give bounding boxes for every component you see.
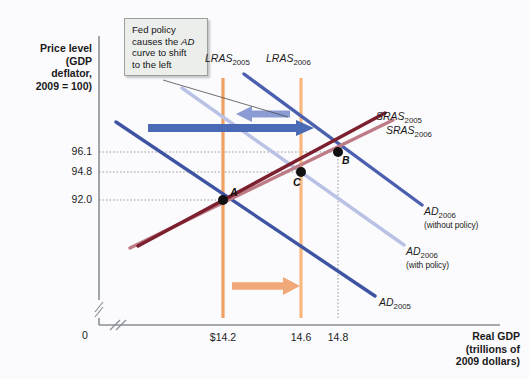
callout-line-2-emphasis: AD [181, 36, 194, 47]
sras-2005-curve [138, 113, 385, 246]
lras-2006-label: LRAS2006 [266, 52, 311, 67]
ad-2006-with-policy-label: AD2006 (with policy) [406, 245, 449, 270]
ad-2006-without-policy-label-main-row: AD2006 [424, 205, 478, 220]
x-axis-title-line-2: (trillions of [398, 343, 520, 356]
callout-line-1: Fed policy [132, 24, 201, 36]
callout-line-3: curve to shift [132, 47, 201, 59]
fed-policy-callout: Fed policy causes the AD curve to shift … [124, 18, 208, 76]
x-axis-title-line-1: Real GDP [398, 330, 520, 343]
point-a-dot [218, 195, 228, 205]
ad-2006-with-policy-label-sub: 2006 [421, 251, 438, 260]
ad-2006-with-policy-label-main: AD [406, 245, 421, 257]
y-tick-92-0: 92.0 [42, 193, 92, 205]
lras-2005-label: LRAS2005 [205, 52, 250, 67]
ad-2006-without-policy-label-sub: 2006 [439, 211, 456, 220]
y-axis-title: Price level (GDP deflator, 2009 = 100) [8, 42, 92, 92]
y-tick-96-1: 96.1 [42, 145, 92, 157]
ad-2006-without-policy-label: AD2006 (without policy) [424, 205, 478, 230]
callout-leader-line [163, 80, 288, 117]
x-tick-14-2: $14.2 [198, 331, 248, 343]
callout-line-2: causes the AD [132, 36, 201, 48]
sras-2005-label: SRAS2005 [376, 110, 422, 125]
sras-2005-label-main: SRAS [376, 110, 405, 122]
y-tick-94-8: 94.8 [42, 165, 92, 177]
x-axis-title: Real GDP (trillions of 2009 dollars) [398, 330, 520, 368]
ad-2005-label-sub: 2005 [394, 302, 411, 311]
ad-2005-label: AD2005 [379, 296, 411, 311]
y-axis-title-line-1: Price level [8, 42, 92, 55]
economics-ad-as-figure: Price level (GDP deflator, 2009 = 100) 9… [0, 0, 529, 379]
point-a-label: A [230, 186, 238, 198]
lras-2005-label-main: LRAS [205, 52, 232, 64]
point-c-label: C [293, 176, 301, 188]
y-axis-title-line-4: 2009 = 100) [8, 80, 92, 93]
ad-2005-label-main: AD [379, 296, 394, 308]
y-axis-title-line-3: deflator, [8, 67, 92, 80]
ad-2006-with-policy-label-main-row: AD2006 [406, 245, 449, 260]
sras-2006-label-main: SRAS [386, 124, 415, 136]
origin-label: 0 [82, 329, 88, 341]
ad-2006-with-policy-note: (with policy) [406, 260, 449, 270]
lras-2006-label-sub: 2006 [293, 58, 310, 67]
lras-2006-label-main: LRAS [266, 52, 293, 64]
sras-2006-label: SRAS2006 [386, 124, 432, 139]
ad-2006-without-policy-note: (without policy) [424, 220, 478, 230]
x-axis-title-line-3: 2009 dollars) [398, 355, 520, 368]
callout-line-4: to the left [132, 59, 201, 71]
lras-2005-label-sub: 2005 [232, 58, 249, 67]
y-axis-title-line-2: (GDP [8, 55, 92, 68]
ad-2006-without-policy-label-main: AD [424, 205, 439, 217]
ad-policy-shift-arrow [236, 106, 290, 122]
x-tick-14-6: 14.6 [281, 331, 321, 343]
lras-shift-arrow [232, 277, 300, 295]
x-tick-14-8: 14.8 [318, 331, 358, 343]
callout-line-2-text: causes the [132, 36, 181, 47]
point-b-label: B [342, 154, 350, 166]
sras-2006-label-sub: 2006 [415, 130, 432, 139]
